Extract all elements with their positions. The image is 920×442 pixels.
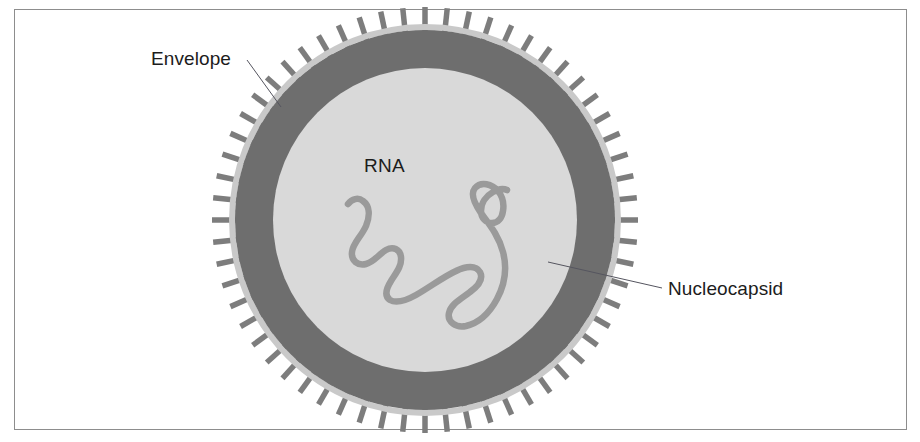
rna-label: RNA — [364, 155, 405, 177]
figure-stage: Envelope RNA Nucleocapsid — [0, 0, 920, 442]
nucleocapsid-core — [273, 68, 577, 372]
nucleocapsid-label: Nucleocapsid — [668, 278, 783, 300]
envelope-label: Envelope — [151, 48, 231, 70]
virus-diagram — [0, 0, 920, 442]
